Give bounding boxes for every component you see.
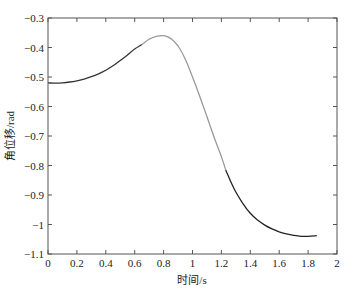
y-tick-label: −0.5 bbox=[24, 71, 44, 83]
x-axis-label: 时间/s bbox=[177, 274, 206, 286]
series-line-segment-3 bbox=[226, 170, 317, 236]
axes-layer: 00.20.40.60.811.21.41.61.82−0.3−0.4−0.5−… bbox=[24, 12, 340, 269]
x-tick-label: 1.6 bbox=[272, 257, 286, 269]
series-line-segment-2 bbox=[142, 36, 226, 170]
y-tick-label: −0.7 bbox=[24, 130, 44, 142]
x-tick-label: 0.2 bbox=[70, 257, 84, 269]
line-chart: 00.20.40.60.811.21.41.61.82−0.3−0.4−0.5−… bbox=[0, 0, 355, 296]
series-line-segment-1 bbox=[48, 45, 142, 84]
x-tick-label: 0.8 bbox=[157, 257, 171, 269]
series-layer bbox=[48, 36, 317, 237]
y-axis-label: 角位移/rad bbox=[3, 110, 16, 161]
x-tick-label: 0.4 bbox=[99, 257, 113, 269]
y-tick-label: −0.8 bbox=[24, 160, 44, 172]
y-tick-label: −0.9 bbox=[24, 189, 44, 201]
y-tick-label: −1.1 bbox=[24, 248, 44, 260]
y-tick-label: −1 bbox=[32, 219, 44, 231]
x-tick-label: 0 bbox=[45, 257, 51, 269]
x-tick-label: 1.4 bbox=[243, 257, 257, 269]
x-tick-label: 2 bbox=[334, 257, 340, 269]
y-tick-label: −0.6 bbox=[24, 101, 44, 113]
x-tick-label: 1.8 bbox=[301, 257, 315, 269]
x-tick-label: 1.2 bbox=[215, 257, 229, 269]
axes-box bbox=[48, 18, 337, 254]
y-tick-label: −0.4 bbox=[24, 42, 44, 54]
y-tick-label: −0.3 bbox=[24, 12, 44, 24]
x-tick-label: 1 bbox=[190, 257, 196, 269]
x-tick-label: 0.6 bbox=[128, 257, 142, 269]
